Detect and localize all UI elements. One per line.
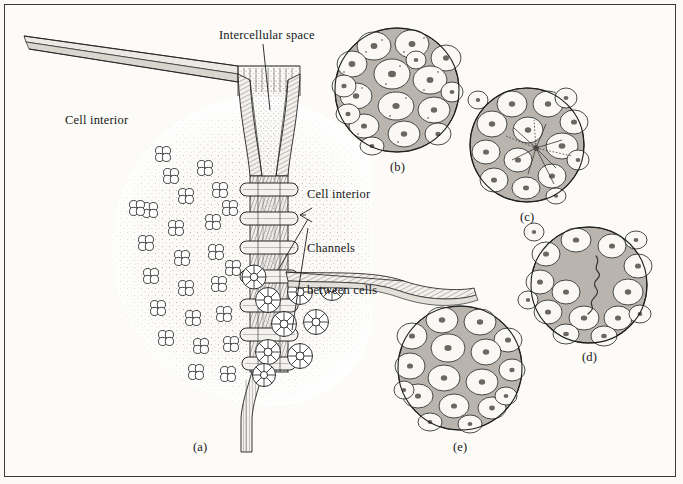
membrane-sheet-upper-left	[24, 36, 238, 82]
panel-label-a: (a)	[193, 440, 207, 455]
panel-label-e: (e)	[453, 440, 467, 455]
label-channels-line1: Channels	[307, 241, 377, 255]
panel-b-circle	[332, 28, 463, 155]
panel-label-d: (d)	[582, 350, 597, 365]
panel-e-circle	[394, 306, 525, 433]
panel-label-c: (c)	[520, 210, 534, 225]
panel-label-b: (b)	[390, 160, 405, 175]
label-channels-between-cells: Channels between cells	[307, 213, 377, 325]
label-cell-interior-right: Cell interior	[307, 187, 370, 202]
panel-c-circle	[468, 88, 589, 204]
figure-root: Intercellular space Cell interior Cell i…	[0, 0, 683, 484]
panel-d-circle	[518, 223, 652, 346]
label-channels-line2: between cells	[307, 283, 377, 297]
label-cell-interior-left: Cell interior	[65, 113, 128, 128]
label-intercellular-space: Intercellular space	[219, 28, 315, 43]
